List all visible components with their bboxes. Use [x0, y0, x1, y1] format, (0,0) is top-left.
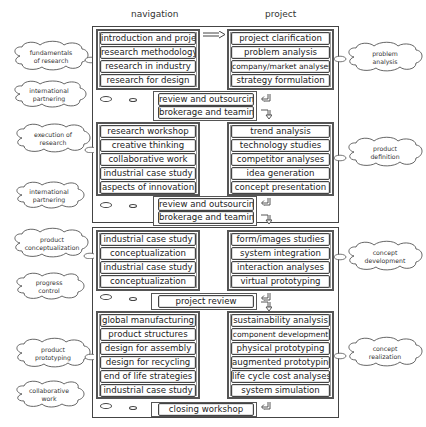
project-item[interactable]: system integration — [231, 247, 330, 260]
nav-item[interactable]: industrial case study — [100, 167, 196, 180]
review-item[interactable]: project review — [158, 295, 254, 308]
project-item[interactable]: physical prototyping — [231, 342, 330, 355]
down-arrow-icon — [260, 109, 272, 121]
project-item[interactable]: trend analysis — [231, 125, 330, 138]
review-item[interactable]: closing workshop — [158, 403, 254, 416]
project-item[interactable]: technology studies — [231, 139, 330, 152]
review-item[interactable]: review and outsourcing — [158, 198, 254, 211]
project-item[interactable]: sustainability analysis — [231, 314, 330, 327]
oval-marker — [100, 96, 112, 102]
cloud-label: conceptrealization — [346, 345, 424, 360]
project-item[interactable]: interaction analyses — [231, 261, 330, 274]
nav-item[interactable]: introduction and project — [100, 32, 196, 45]
cloud-label: internationalpartnering — [12, 188, 86, 203]
project-item[interactable]: problem analysis — [231, 46, 330, 59]
oval-marker — [129, 406, 137, 410]
nav-item[interactable]: research workshop — [100, 125, 196, 138]
cloud-product-prototyping: productprototyping — [12, 337, 94, 369]
cloud-label: execution ofresearch — [12, 131, 94, 146]
right-arrow-icon — [202, 31, 226, 39]
nav-item[interactable]: design for assembly — [100, 342, 196, 355]
cloud-concept-development: conceptdevelopment — [334, 240, 424, 272]
project-item[interactable]: life cycle cost analyses — [231, 370, 330, 383]
down-arrow-icon — [260, 214, 272, 226]
cloud-concept-realization: conceptrealization — [334, 336, 424, 368]
nav-item[interactable]: design for recycling — [100, 356, 196, 369]
cloud-label: progresscontrol — [12, 279, 86, 294]
project-column-header: project — [265, 9, 296, 19]
cloud-fundamentals-of-research: fundamentalsof research — [10, 40, 92, 72]
oval-marker — [100, 294, 112, 300]
project-item[interactable]: competitor analyses — [231, 153, 330, 166]
project-item[interactable]: idea generation — [231, 167, 330, 180]
nav-item[interactable]: research methodology — [100, 46, 196, 59]
project-item[interactable]: system simulation — [231, 384, 330, 397]
nav-item[interactable]: research in industry — [100, 60, 196, 73]
nav-item[interactable]: research for design — [100, 74, 196, 87]
nav-item[interactable]: industrial case study — [100, 233, 196, 246]
nav-item[interactable]: industrial case study — [100, 384, 196, 397]
nav-item[interactable]: conceptualization — [100, 275, 196, 288]
project-item[interactable]: augmented prototyping — [231, 356, 330, 369]
project-item[interactable]: concept presentation — [231, 181, 330, 194]
oval-marker — [100, 403, 112, 409]
cloud-progress-control: progresscontrol — [12, 272, 86, 300]
cloud-product-conceptualization: productconceptualization — [10, 227, 94, 259]
cloud-label: productdefinition — [346, 145, 424, 160]
oval-marker — [129, 204, 137, 208]
cloud-label: problemanalysis — [346, 50, 424, 65]
nav-item[interactable]: product structures — [100, 328, 196, 341]
cloud-problem-analysis: problemanalysis — [334, 41, 424, 73]
project-item[interactable]: strategy formulation — [231, 74, 330, 87]
oval-marker — [129, 98, 137, 102]
cloud-label: collaborativework — [12, 387, 86, 402]
cloud-execution-of-research: execution ofresearch — [12, 123, 94, 153]
oval-marker — [100, 202, 112, 208]
cloud-label: fundamentalsof research — [10, 49, 92, 64]
nav-item[interactable]: industrial case study — [100, 261, 196, 274]
review-item[interactable]: brokerage and teaming — [158, 211, 254, 224]
project-item[interactable]: form/images studies — [231, 233, 330, 246]
review-item[interactable]: brokerage and teaming — [158, 106, 254, 119]
project-item[interactable]: project clarification — [231, 32, 330, 45]
return-arrow-icon — [260, 197, 272, 207]
nav-item[interactable]: creative thinking — [100, 139, 196, 152]
navigation-column-header: navigation — [131, 9, 179, 19]
project-item[interactable]: virtual prototyping — [231, 275, 330, 288]
cloud-label: conceptdevelopment — [346, 249, 424, 264]
nav-item[interactable]: conceptualization — [100, 247, 196, 260]
cloud-label: internationalpartnering — [10, 87, 88, 102]
cloud-product-definition: productdefinition — [334, 136, 424, 168]
project-item[interactable]: component development — [231, 328, 330, 341]
nav-item[interactable]: global manufacturing — [100, 314, 196, 327]
project-item[interactable]: company/market analyses — [231, 60, 330, 73]
cloud-international-partnering: internationalpartnering — [10, 80, 88, 108]
cloud-label: productprototyping — [12, 346, 94, 361]
return-arrow-icon — [260, 93, 272, 103]
nav-item[interactable]: end of life strategies — [100, 370, 196, 383]
cloud-international-partnering: internationalpartnering — [12, 181, 86, 209]
cloud-label: productconceptualization — [10, 236, 94, 251]
oval-marker — [129, 297, 137, 301]
nav-item[interactable]: aspects of innovation — [100, 181, 196, 194]
review-item[interactable]: review and outsourcing — [158, 93, 254, 106]
return-arrow-icon — [260, 401, 272, 411]
nav-item[interactable]: collaborative work — [100, 153, 196, 166]
cloud-collaborative-work: collaborativework — [12, 380, 86, 408]
